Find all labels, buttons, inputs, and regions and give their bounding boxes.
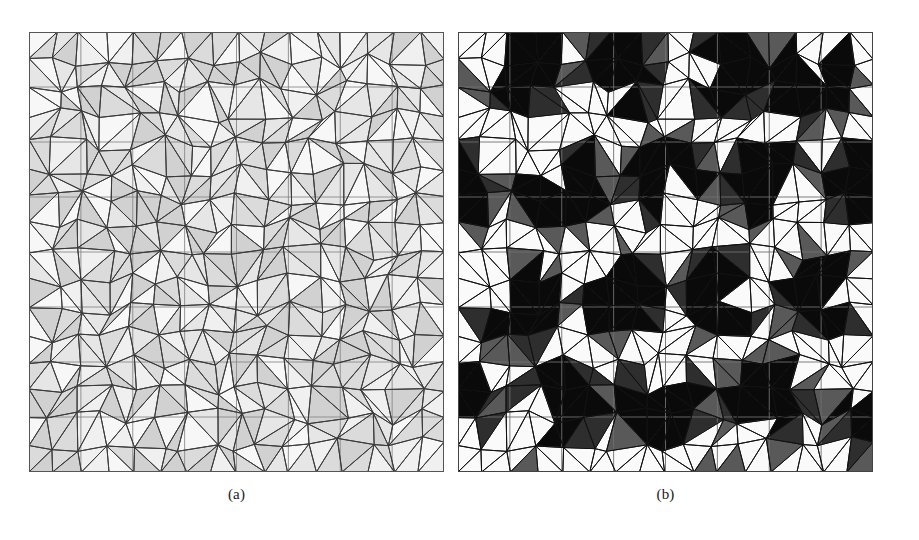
panel-b-mesh (458, 32, 873, 472)
figure-container: (a) (b) (0, 0, 919, 540)
panel-a-caption: (a) (29, 486, 444, 503)
panel-b-caption: (b) (458, 486, 873, 503)
panel-a-mesh (29, 32, 444, 472)
